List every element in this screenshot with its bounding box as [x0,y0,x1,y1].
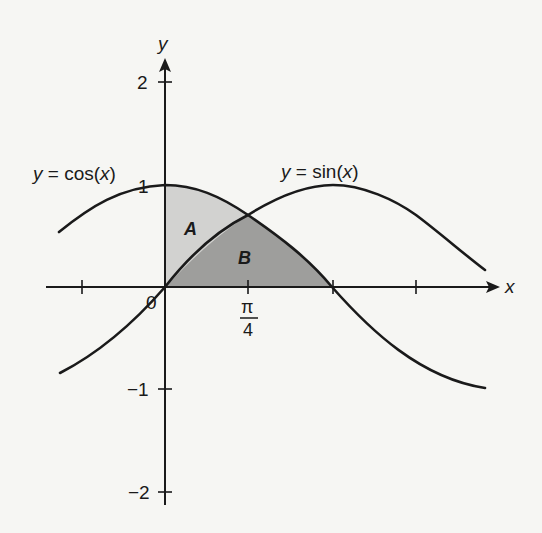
region-a-label: A [183,219,197,239]
y-tick-label-2: 2 [137,72,148,93]
y-axis-label: y [156,33,169,54]
x-axis-label: x [504,276,516,297]
y-tick-label-1: 1 [138,176,149,197]
sin-curve-label: y = sin(x) [279,161,359,182]
cos-label-close: ) [110,163,116,184]
sin-label-eq: = sin( [291,161,344,182]
sin-label-close: ) [352,161,358,182]
origin-label: 0 [146,292,157,313]
y-tick-label-minus2: −2 [128,482,150,503]
y-tick-label-minus1: −1 [127,379,149,400]
x-tick-label-pi-4-denominator: 4 [243,320,253,340]
region-b-label: B [238,248,251,268]
cos-label-eq: = cos( [43,163,101,184]
cos-curve-label: y = cos(x) [31,163,116,184]
x-tick-label-pi-4-numerator: π [241,297,253,317]
sin-cos-area-diagram: y x 2 1 −1 −2 0 π 4 y = cos(x) y = sin(x… [0,0,542,533]
